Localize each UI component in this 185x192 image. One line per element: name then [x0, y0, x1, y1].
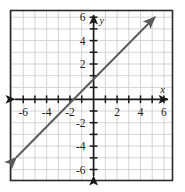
x-tick-label-neg2: -2	[65, 106, 75, 118]
y-tick-label-neg6: -6	[76, 164, 86, 176]
y-tick-label-6: 6	[80, 11, 86, 23]
x-tick-label-2: 2	[114, 106, 120, 118]
y-tick-label-neg4: -4	[76, 140, 86, 152]
y-tick-label-2: 2	[80, 58, 86, 70]
graph-canvas: -6 -4 -2 2 4 6 6 4 2 -2 -4 -6 y x	[0, 0, 185, 192]
y-tick-label-4: 4	[80, 35, 86, 47]
x-tick-label-neg4: -4	[42, 106, 52, 118]
y-axis-name-label: y	[99, 15, 105, 26]
x-tick-label-neg6: -6	[18, 106, 28, 118]
y-tick-label-neg2: -2	[76, 117, 86, 129]
x-tick-label-6: 6	[161, 106, 167, 118]
x-axis-name-label: x	[159, 84, 165, 95]
coordinate-plane-figure: -6 -4 -2 2 4 6 6 4 2 -2 -4 -6 y x	[0, 0, 185, 192]
x-tick-label-4: 4	[138, 106, 144, 118]
